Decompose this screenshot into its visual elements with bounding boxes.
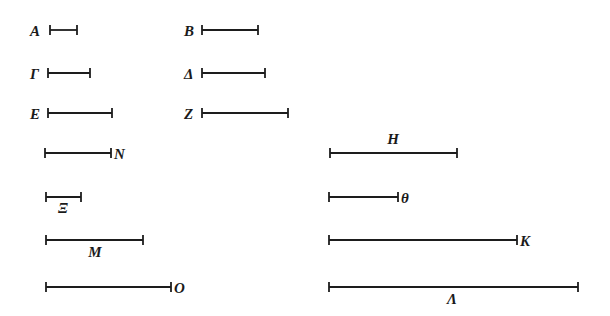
segment-epsilon-label: E (29, 106, 40, 122)
segment-gamma-label: Γ (29, 66, 40, 82)
segment-alpha-label: A (29, 23, 40, 39)
segment-zeta-label: Z (183, 106, 193, 122)
segment-diagram-canvas: ABΓΔEZNHΞθMKOΛ (0, 0, 610, 316)
segment-nu-label: N (113, 146, 126, 162)
figure-background (0, 0, 610, 316)
segment-delta-label: Δ (183, 66, 193, 82)
segment-kappa-label: K (519, 233, 531, 249)
segment-lambda-label: Λ (446, 291, 457, 307)
segment-xi-label: Ξ (58, 200, 68, 216)
segment-mu-label: M (87, 244, 102, 260)
segment-eta-label: H (386, 131, 400, 147)
segment-diagram-figure: ABΓΔEZNHΞθMKOΛ (0, 0, 610, 316)
segment-theta-label: θ (401, 190, 409, 206)
segment-omicron-label: O (174, 280, 185, 296)
segment-beta-label: B (183, 23, 194, 39)
